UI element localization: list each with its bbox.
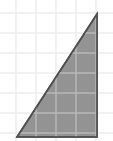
triangle-figure-svg bbox=[0, 0, 113, 141]
figure-canvas bbox=[0, 0, 113, 141]
